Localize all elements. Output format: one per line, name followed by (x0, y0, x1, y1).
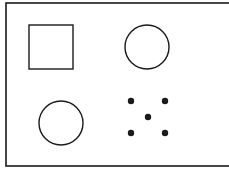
dot (162, 130, 168, 136)
dot (162, 98, 168, 104)
dot (128, 98, 134, 104)
dot (128, 130, 134, 136)
five-dot-pattern (128, 98, 168, 136)
figure-frame (6, 3, 229, 166)
circle-shape-bottom (39, 101, 83, 145)
square-shape (29, 25, 73, 69)
shapes-figure (0, 0, 229, 177)
circle-shape-top (125, 25, 169, 69)
dot (145, 114, 151, 120)
